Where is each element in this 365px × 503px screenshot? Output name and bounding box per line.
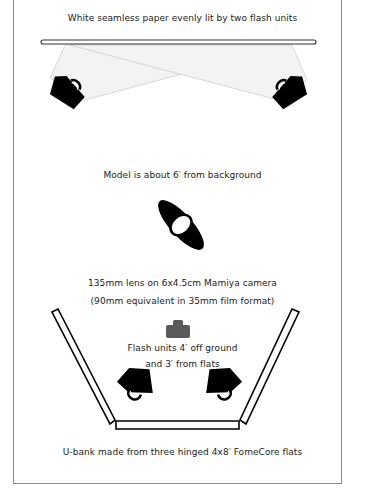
flash-unit-icon xyxy=(206,365,244,401)
camera-icon xyxy=(166,320,190,338)
label-camera-line1: 135mm lens on 6x4.5cm Mamiya camera xyxy=(0,277,365,289)
model-topview-icon xyxy=(150,193,212,258)
seamless-paper-backdrop xyxy=(41,40,316,44)
label-flash-line2: and 3′ from flats xyxy=(0,358,365,370)
fomecore-flat-bottom xyxy=(116,421,239,429)
flash-unit-icon xyxy=(115,365,153,401)
light-cones xyxy=(50,45,307,100)
label-camera-line2: (90mm equivalent in 35mm film format) xyxy=(0,295,365,307)
label-background: White seamless paper evenly lit by two f… xyxy=(0,12,365,24)
label-ubank: U-bank made from three hinged 4x8′ FomeC… xyxy=(0,446,365,458)
lighting-diagram xyxy=(0,0,365,503)
label-model: Model is about 6′ from background xyxy=(0,169,365,181)
label-flash-line1: Flash units 4′ off ground xyxy=(0,342,365,354)
